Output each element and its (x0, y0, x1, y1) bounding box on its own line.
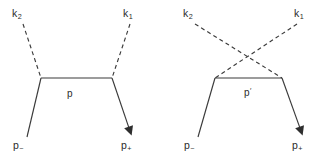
label-k1-uncrossed: k1 (123, 8, 133, 19)
label-k1-crossed: k1 (294, 8, 304, 19)
label-k2-uncrossed-base: k (12, 7, 17, 19)
label-k2-uncrossed-sub: 2 (18, 12, 22, 21)
label-pplus-crossed: p+ (292, 140, 302, 151)
label-propagator-pprime-crossed: p′ (244, 88, 251, 98)
fermion-line-pplus-uncrossed (112, 78, 129, 129)
fermion-line-pplus-crossed (282, 78, 300, 129)
label-pplus-uncrossed: p+ (121, 140, 131, 151)
arrow-head-pplus-uncrossed (124, 125, 133, 135)
label-pplus-crossed-sub: + (298, 144, 302, 153)
label-propagator-pprime-crossed-prime: ′ (250, 86, 252, 95)
label-k1-crossed-base: k (294, 7, 299, 19)
label-k2-crossed-sub: 2 (189, 12, 193, 21)
photon-line-k1-uncrossed (112, 24, 130, 78)
label-k2-crossed: k2 (183, 8, 193, 19)
label-propagator-pprime-crossed-base: p (244, 87, 250, 98)
label-pminus-crossed: p− (184, 140, 194, 151)
label-pminus-uncrossed: p− (13, 140, 23, 151)
label-pplus-uncrossed-sub: + (127, 144, 131, 153)
photon-line-k2-crossed (195, 24, 282, 78)
crossed-diagram (195, 24, 304, 137)
feynman-diagram-figure: k2 k1 p p− p+ k2 k1 p′ p− p+ (0, 0, 327, 157)
photon-line-k1-crossed (215, 24, 297, 78)
fermion-line-pminus-crossed (198, 78, 215, 137)
diagram-canvas (0, 0, 327, 157)
fermion-line-pminus-uncrossed (27, 78, 41, 137)
label-k1-uncrossed-sub: 1 (129, 12, 133, 21)
label-propagator-p-uncrossed-base: p (67, 88, 73, 99)
label-k1-uncrossed-base: k (123, 7, 128, 19)
label-k2-crossed-base: k (183, 7, 188, 19)
label-propagator-p-uncrossed: p (67, 89, 73, 99)
uncrossed-diagram (23, 24, 133, 137)
label-k1-crossed-sub: 1 (300, 12, 304, 21)
label-pminus-crossed-sub: − (190, 144, 194, 153)
arrow-head-pplus-crossed (295, 125, 304, 135)
label-k2-uncrossed: k2 (12, 8, 22, 19)
photon-line-k2-uncrossed (23, 24, 41, 78)
label-pminus-uncrossed-sub: − (19, 144, 23, 153)
